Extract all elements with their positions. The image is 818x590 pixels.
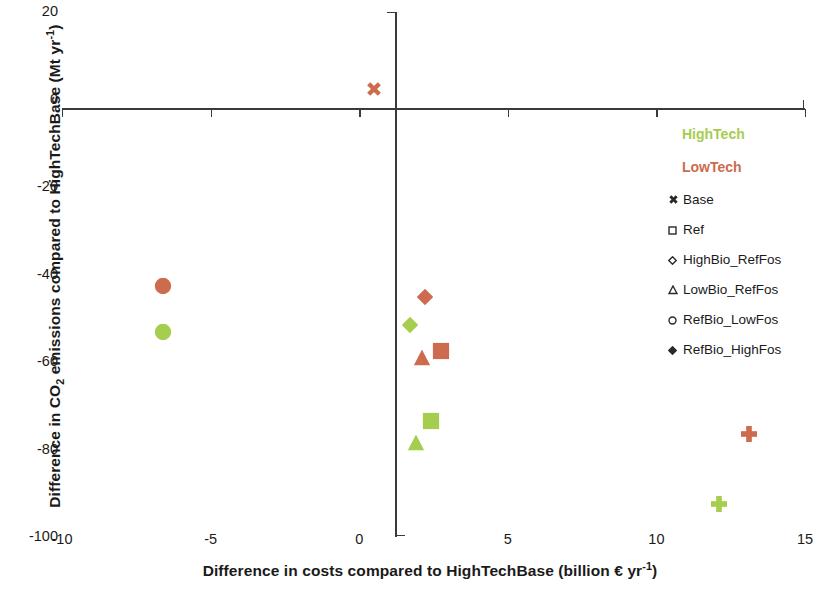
y-tick-label: -20 (0, 178, 58, 194)
x-axis-title-end: ) (652, 562, 657, 579)
x-axis-title-sup: -1 (642, 560, 652, 572)
legend-item-refbio_lowfos[interactable]: RefBio_LowFos (668, 312, 811, 327)
legend-series-lowtech[interactable]: LowTech (682, 159, 811, 175)
y-tick-label: -80 (0, 441, 58, 457)
data-point-hightech-ref[interactable] (422, 413, 439, 434)
y-tick-label: 20 (0, 3, 58, 19)
data-point-hightech-refbio_lowfos[interactable] (155, 323, 172, 344)
x-tick-label: 10 (626, 531, 686, 547)
data-point-lowtech-refbio_lowfos[interactable] (155, 277, 172, 298)
y-axis-top-cap (387, 12, 396, 13)
legend-item-highbio_reffos[interactable]: HighBio_RefFos (668, 252, 811, 267)
legend-item-ref[interactable]: Ref (668, 222, 811, 237)
x-tick (805, 109, 806, 117)
data-point-hightech-lowbio_reffos[interactable] (408, 435, 424, 455)
data-point-lowtech-base[interactable] (366, 80, 383, 101)
triangle-icon (668, 283, 681, 296)
chart-legend: HighTechLowTech BaseRefHighBio_RefFosLow… (668, 126, 811, 372)
legend-item-label: HighBio_RefFos (683, 252, 781, 267)
legend-item-lowbio_reffos[interactable]: LowBio_RefFos (668, 282, 811, 297)
x-axis-right-cap (803, 100, 804, 109)
y-tick-label: 0 (0, 91, 58, 107)
data-point-lowtech-highbio_reffos[interactable] (417, 289, 433, 309)
legend-series-labels: HighTechLowTech (668, 126, 811, 175)
square-icon (668, 223, 681, 236)
x-tick (359, 109, 360, 117)
x-axis-title-pre: Difference in costs compared to HighTech… (203, 562, 643, 579)
x-tick-label: 15 (775, 531, 818, 547)
x-tick (508, 109, 509, 117)
y-axis-title-end: ) (46, 25, 63, 30)
y-axis-bottom-cap (396, 535, 405, 536)
x-tick (62, 109, 63, 117)
x-axis-line (62, 108, 805, 110)
legend-item-base[interactable]: Base (668, 192, 811, 207)
x-tick (211, 109, 212, 117)
data-point-hightech-highbio_reffos[interactable] (402, 317, 418, 337)
legend-item-label: Base (683, 192, 714, 207)
x-axis-title: Difference in costs compared to HighTech… (60, 560, 800, 580)
x-tick-label: -5 (181, 531, 241, 547)
cross-icon (668, 193, 681, 206)
legend-item-label: Ref (683, 222, 704, 237)
legend-item-label: RefBio_LowFos (683, 312, 778, 327)
data-point-lowtech-lowbio_reffos[interactable] (414, 350, 430, 370)
legend-item-refbio_highfos[interactable]: RefBio_HighFos (668, 342, 811, 357)
data-point-lowtech-refbio_highfos[interactable] (740, 426, 757, 447)
data-point-hightech-refbio_highfos[interactable] (710, 496, 727, 517)
legend-item-label: LowBio_RefFos (683, 282, 778, 297)
y-tick-label: -40 (0, 266, 58, 282)
diamond-filled-icon (668, 343, 681, 356)
x-tick (656, 109, 657, 117)
y-axis-line (395, 12, 397, 537)
legend-series-hightech[interactable]: HighTech (682, 126, 811, 142)
legend-marker-entries: BaseRefHighBio_RefFosLowBio_RefFosRefBio… (668, 192, 811, 357)
x-tick-label: 5 (478, 531, 538, 547)
x-tick-label: 0 (329, 531, 389, 547)
y-tick-label: -60 (0, 353, 58, 369)
circle-icon (668, 313, 681, 326)
diamond-icon (668, 253, 681, 266)
y-tick-label: -100 (0, 528, 58, 544)
legend-item-label: RefBio_HighFos (683, 342, 781, 357)
y-axis-title-sup: -1 (44, 30, 56, 40)
data-point-lowtech-ref[interactable] (432, 343, 449, 364)
